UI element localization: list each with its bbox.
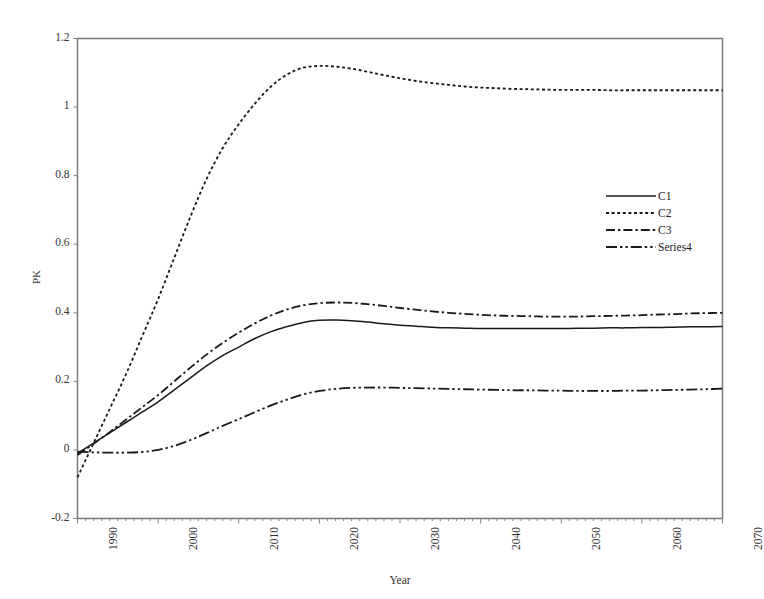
x-tick-label: 2040 bbox=[510, 527, 522, 550]
x-tick-label: 2030 bbox=[429, 527, 441, 550]
chart-legend: C1C2C3Series4 bbox=[601, 185, 695, 258]
y-tick-label: 1 bbox=[30, 99, 70, 111]
y-tick-label: 0 bbox=[30, 442, 70, 454]
legend-label-c1: C1 bbox=[658, 190, 671, 202]
x-tick-label: 2070 bbox=[752, 527, 764, 550]
legend-item-c3[interactable]: C3 bbox=[605, 221, 692, 238]
legend-swatch-c3 bbox=[605, 224, 657, 236]
x-tick-label: 2000 bbox=[187, 527, 199, 550]
legend-item-series4[interactable]: Series4 bbox=[605, 238, 692, 255]
legend-item-c2[interactable]: C2 bbox=[605, 204, 692, 221]
legend-label-c2: C2 bbox=[658, 207, 671, 219]
y-tick-label: 0.6 bbox=[30, 236, 70, 248]
x-axis-title: Year bbox=[340, 574, 460, 586]
legend-swatch-c1 bbox=[605, 190, 657, 202]
y-tick-label: 0.2 bbox=[30, 373, 70, 385]
legend-item-c1[interactable]: C1 bbox=[605, 187, 692, 204]
x-tick-label: 2060 bbox=[671, 527, 683, 550]
y-tick-label: -0.2 bbox=[30, 511, 70, 523]
x-tick-label: 1990 bbox=[107, 527, 119, 550]
x-tick-label: 2020 bbox=[348, 527, 360, 550]
x-tick-label: 2010 bbox=[268, 527, 280, 550]
x-tick-label: 2050 bbox=[590, 527, 602, 550]
legend-label-series4: Series4 bbox=[658, 241, 692, 253]
legend-swatch-c2 bbox=[605, 207, 657, 219]
legend-label-c3: C3 bbox=[658, 224, 671, 236]
y-tick-label: 1.2 bbox=[30, 31, 70, 43]
y-tick-label: 0.8 bbox=[30, 168, 70, 180]
y-axis-title: PK bbox=[30, 257, 42, 297]
y-tick-label: 0.4 bbox=[30, 305, 70, 317]
legend-swatch-series4 bbox=[605, 241, 657, 253]
